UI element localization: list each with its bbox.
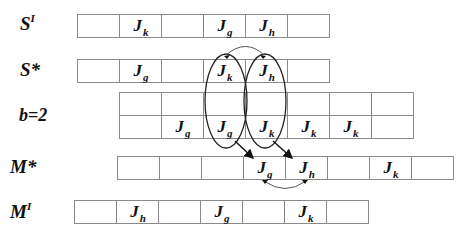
empty-cell <box>159 156 202 180</box>
job-cell: Jh <box>285 156 328 180</box>
job-cell: Jg <box>243 156 286 180</box>
empty-cell <box>242 200 285 224</box>
job-subscript: g <box>227 127 233 139</box>
empty-cell <box>158 200 201 224</box>
job-cell: Jk <box>119 14 162 38</box>
job-subscript: h <box>140 212 146 224</box>
job-subscript: k <box>308 212 314 224</box>
job-subscript: h <box>269 71 275 83</box>
job-letter: J <box>299 202 308 222</box>
empty-cell <box>74 200 117 224</box>
swap-arc-s-star <box>226 47 264 56</box>
job-cell: Jk <box>329 115 372 139</box>
empty-cell <box>329 92 372 116</box>
strip-s-initial: JkJgJh <box>78 14 330 38</box>
job-cell: Jk <box>284 200 327 224</box>
job-letter: J <box>259 16 268 36</box>
job-subscript: g <box>227 26 233 38</box>
empty-cell <box>161 14 204 38</box>
label-m-star: M* <box>10 157 36 176</box>
job-letter: J <box>134 16 143 36</box>
swap-arrowhead-right-m <box>302 180 308 184</box>
strip-b2-top <box>120 92 414 116</box>
job-cell: Jg <box>161 115 204 139</box>
job-subscript: k <box>353 127 359 139</box>
swap-arrowhead-left-m <box>262 180 268 184</box>
label-text: M <box>10 201 27 222</box>
job-subscript: k <box>311 127 317 139</box>
empty-cell <box>327 156 370 180</box>
job-letter: J <box>218 117 227 137</box>
empty-cell <box>117 156 160 180</box>
job-subscript: g <box>143 71 149 83</box>
job-subscript: g <box>224 212 230 224</box>
swap-arc-m-star <box>264 181 306 189</box>
label-s-initial: SI <box>20 14 35 33</box>
job-subscript: h <box>309 168 315 180</box>
empty-cell <box>119 115 162 139</box>
strip-m-initial: JhJgJk <box>75 200 369 224</box>
strip-s-star: JgJkJh <box>78 59 330 83</box>
label-sup: I <box>27 200 31 212</box>
label-m-initial: MI <box>10 202 31 221</box>
label-text: S <box>20 13 31 34</box>
empty-cell <box>161 59 204 83</box>
job-cell: Jh <box>245 59 288 83</box>
label-b2: b=2 <box>19 106 47 124</box>
job-letter: J <box>218 16 227 36</box>
job-letter: J <box>176 117 185 137</box>
job-subscript: k <box>269 127 275 139</box>
label-sup: I <box>31 12 35 24</box>
job-letter: J <box>259 61 268 81</box>
job-subscript: g <box>185 127 191 139</box>
job-letter: J <box>299 158 308 178</box>
job-cell: Jk <box>287 115 330 139</box>
label-text: b=2 <box>19 105 47 125</box>
job-cell: Jh <box>245 14 288 38</box>
empty-cell <box>119 92 162 116</box>
empty-cell <box>371 115 414 139</box>
job-letter: J <box>258 158 267 178</box>
job-letter: J <box>130 202 139 222</box>
job-subscript: h <box>269 26 275 38</box>
job-subscript: g <box>267 168 273 180</box>
strip-b2-bottom: JgJgJkJkJk <box>120 115 414 139</box>
empty-cell <box>77 59 120 83</box>
empty-cell <box>161 92 204 116</box>
job-cell: Jh <box>116 200 159 224</box>
empty-cell <box>287 59 330 83</box>
job-cell: Jg <box>200 200 243 224</box>
job-letter: J <box>384 158 393 178</box>
label-text: M* <box>10 156 36 177</box>
job-letter: J <box>215 202 224 222</box>
job-subscript: k <box>227 71 233 83</box>
empty-cell <box>326 200 369 224</box>
job-cell: Jk <box>245 115 288 139</box>
job-cell: Jk <box>203 59 246 83</box>
empty-cell <box>287 92 330 116</box>
label-text: S* <box>20 59 40 80</box>
job-cell: Jg <box>203 14 246 38</box>
empty-cell <box>77 14 120 38</box>
strip-m-star: JgJhJk <box>118 156 454 180</box>
empty-cell <box>371 92 414 116</box>
job-letter: J <box>134 61 143 81</box>
job-letter: J <box>218 61 227 81</box>
job-letter: J <box>302 117 311 137</box>
empty-cell <box>201 156 244 180</box>
job-cell: Jg <box>203 115 246 139</box>
job-letter: J <box>260 117 269 137</box>
empty-cell <box>245 92 288 116</box>
job-cell: Jg <box>119 59 162 83</box>
empty-cell <box>411 156 454 180</box>
empty-cell <box>287 14 330 38</box>
label-s-star: S* <box>20 60 40 79</box>
strip-b2: JgJgJkJkJk <box>120 92 414 139</box>
job-subscript: k <box>393 168 399 180</box>
job-letter: J <box>344 117 353 137</box>
job-cell: Jk <box>369 156 412 180</box>
empty-cell <box>203 92 246 116</box>
job-subscript: k <box>143 26 149 38</box>
